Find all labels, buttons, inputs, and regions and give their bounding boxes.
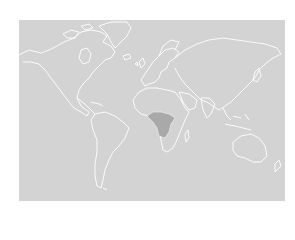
world-map-svg — [19, 20, 285, 201]
map-background — [19, 20, 285, 201]
world-map — [19, 20, 285, 201]
